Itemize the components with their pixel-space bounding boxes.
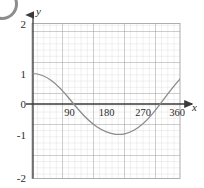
x-tick-90: 90 (64, 107, 75, 118)
x-tick-180: 180 (99, 107, 115, 118)
y-tick-neg1: -1 (17, 129, 26, 141)
x-tick-360: 360 (169, 107, 185, 118)
y-tick-0: 0 (21, 98, 27, 110)
graph-figure: 2 1 0 -1 -2 90 180 270 360 y x (0, 0, 204, 188)
x-axis-label: x (191, 101, 197, 113)
y-tick-1: 1 (21, 68, 27, 80)
y-axis-label: y (35, 5, 41, 17)
y-tick-2: 2 (21, 18, 27, 30)
y-tick-neg2: -2 (17, 172, 26, 184)
y-tick-labels: 2 1 0 -1 -2 (17, 18, 27, 184)
x-tick-270: 270 (135, 107, 151, 118)
graph-paper-grid (32, 24, 180, 179)
cosine-graph-svg: 2 1 0 -1 -2 90 180 270 360 y x (0, 0, 204, 188)
